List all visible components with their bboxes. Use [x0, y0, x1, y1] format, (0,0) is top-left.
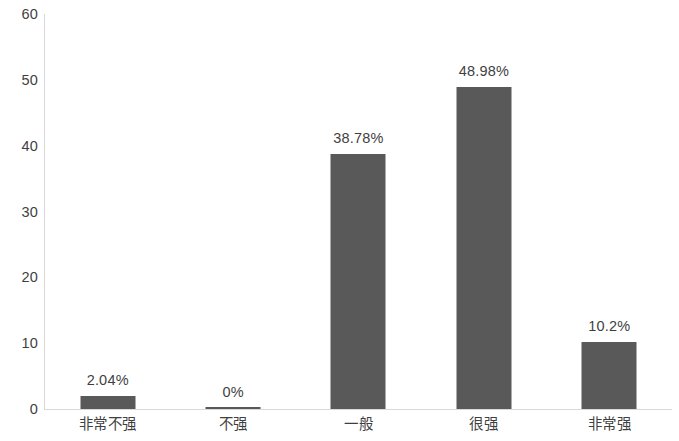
bar-slot: 0% [170, 14, 295, 409]
bar-value-label: 48.98% [459, 64, 509, 79]
y-tick-label: 50 [4, 73, 38, 88]
x-category-label: 一般 [344, 414, 373, 434]
bar[interactable] [331, 154, 386, 409]
x-category-label: 非常强 [588, 414, 632, 434]
bar[interactable] [582, 342, 637, 409]
bar-value-label: 38.78% [333, 131, 383, 146]
x-axis-category-labels: 非常不强 不强 一般 很强 非常强 [45, 414, 672, 441]
bar-slot: 48.98% [421, 14, 546, 409]
bar-value-label: 2.04% [87, 373, 129, 388]
y-tick-label: 20 [4, 270, 38, 285]
bar-slot: 10.2% [547, 14, 672, 409]
bar[interactable] [206, 407, 261, 409]
y-tick-label: 0 [4, 402, 38, 417]
x-category-label: 很强 [469, 414, 498, 434]
bar-value-label: 0% [222, 385, 243, 400]
plot-area: 2.04% 0% 38.78% 48.98% 10.2% [45, 14, 672, 409]
bar-slot: 2.04% [45, 14, 170, 409]
y-tick-label: 10 [4, 336, 38, 351]
bar-chart: 60 50 40 30 20 10 0 2.04% 0% 38.78% 48.9… [0, 0, 679, 441]
bar[interactable] [456, 87, 511, 409]
y-axis-tick-labels: 60 50 40 30 20 10 0 [0, 0, 38, 441]
bar-slot: 38.78% [296, 14, 421, 409]
bar[interactable] [80, 396, 135, 409]
x-category-label: 非常不强 [79, 414, 137, 434]
y-tick-label: 40 [4, 139, 38, 154]
y-tick-label: 60 [4, 7, 38, 22]
y-tick-label: 30 [4, 205, 38, 220]
x-category-label: 不强 [219, 414, 248, 434]
x-axis-line [44, 409, 672, 410]
bar-value-label: 10.2% [588, 319, 630, 334]
